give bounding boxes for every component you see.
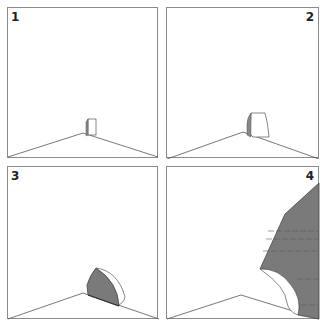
panel-4-scene: [167, 167, 320, 320]
object-small: [86, 119, 96, 136]
floor-lines: [8, 293, 159, 319]
panel-1: 1: [7, 7, 158, 158]
floor-lines: [167, 132, 319, 159]
panel-2: 2: [166, 7, 319, 158]
panel-1-scene: [8, 8, 159, 159]
panel-4: 4: [166, 166, 319, 319]
floor-lines: [8, 133, 158, 157]
panel-3: 3: [7, 166, 158, 319]
panel-2-scene: [167, 8, 320, 159]
object-closeup: [260, 183, 319, 319]
object-medium: [247, 113, 269, 137]
panel-3-scene: [8, 167, 159, 320]
object-large: [87, 268, 125, 306]
